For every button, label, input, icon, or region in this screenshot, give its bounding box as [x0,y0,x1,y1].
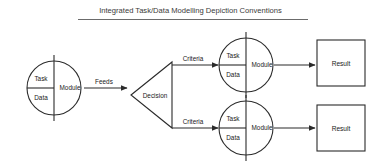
source-node-task-label: Task [34,75,48,82]
source-node: Task Data Module [27,55,81,121]
branch-bottom-criteria-label: Criteria [183,118,204,125]
branch-bottom: Criteria Task Data Module Result [172,95,365,161]
branch-bottom-node-module-label: Module [252,124,273,131]
branch-top: Criteria Task Data Module Result [172,32,365,98]
page-title: Integrated Task/Data Modelling Depiction… [99,6,282,15]
branch-top-criteria-label: Criteria [183,55,204,62]
source-node-module-label: Module [60,84,81,91]
branch-top-result-label: Result [332,60,351,67]
branch-top-node-task-label: Task [226,52,240,59]
feeds-edge-label: Feeds [95,78,113,85]
decision-node: Decision [131,62,172,128]
decision-node-label: Decision [143,92,168,99]
branch-bottom-result-label: Result [332,125,351,132]
diagram-canvas: Integrated Task/Data Modelling Depiction… [0,0,381,166]
feeds-edge: Feeds [84,78,127,88]
branch-bottom-node-task-label: Task [226,115,240,122]
branch-top-node-module-label: Module [252,61,273,68]
source-node-data-label: Data [34,94,48,101]
branch-bottom-node-data-label: Data [226,134,240,141]
branch-top-node-data-label: Data [226,71,240,78]
flow-diagram: Integrated Task/Data Modelling Depiction… [0,0,381,166]
